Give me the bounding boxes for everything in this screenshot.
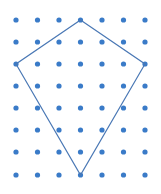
grid-dot — [121, 149, 126, 154]
grid-dot — [13, 105, 18, 110]
grid-dot — [121, 61, 126, 66]
grid-dot — [56, 39, 61, 44]
grid-dot — [56, 127, 61, 132]
grid-dot — [78, 61, 83, 66]
grid-dot — [99, 17, 104, 22]
dot-grid-diagram — [0, 0, 161, 194]
grid-dot — [35, 83, 40, 88]
grid-dots — [13, 17, 147, 177]
grid-dot — [78, 83, 83, 88]
grid-dot — [13, 17, 18, 22]
grid-dot — [78, 39, 83, 44]
grid-dot — [56, 172, 61, 177]
grid-dot — [35, 39, 40, 44]
grid-dot — [56, 17, 61, 22]
grid-dot — [99, 83, 104, 88]
grid-dot — [121, 39, 126, 44]
grid-dot — [56, 83, 61, 88]
grid-dot — [121, 127, 126, 132]
grid-dot — [56, 149, 61, 154]
grid-dot — [78, 127, 83, 132]
grid-dot — [35, 172, 40, 177]
grid-dot — [35, 105, 40, 110]
grid-dot — [35, 17, 40, 22]
grid-dot — [142, 172, 147, 177]
grid-dot — [142, 127, 147, 132]
grid-dot — [99, 61, 104, 66]
grid-dot — [56, 61, 61, 66]
grid-dot — [78, 149, 83, 154]
grid-dot — [121, 172, 126, 177]
grid-dot — [99, 39, 104, 44]
grid-dot — [78, 105, 83, 110]
grid-dot — [121, 105, 126, 110]
grid-dot — [121, 83, 126, 88]
grid-dot — [99, 127, 104, 132]
grid-dot — [13, 83, 18, 88]
grid-dot — [13, 127, 18, 132]
grid-dot — [99, 172, 104, 177]
grid-dot — [13, 149, 18, 154]
grid-dot — [121, 17, 126, 22]
grid-dot — [35, 149, 40, 154]
grid-dot — [13, 172, 18, 177]
grid-dot — [56, 105, 61, 110]
grid-dot — [35, 127, 40, 132]
grid-dot — [99, 105, 104, 110]
grid-dot — [35, 61, 40, 66]
grid-dot — [142, 149, 147, 154]
grid-dot — [142, 83, 147, 88]
grid-dot — [142, 39, 147, 44]
grid-dot — [142, 105, 147, 110]
grid-dot — [99, 149, 104, 154]
grid-dot — [142, 17, 147, 22]
grid-dot — [13, 39, 18, 44]
